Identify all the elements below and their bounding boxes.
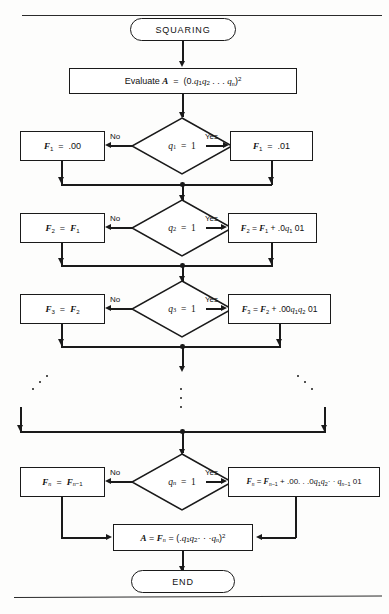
page-rule-top [22, 15, 382, 16]
no-box-row-2: F2 = F1 [20, 213, 105, 243]
arrowhead-merge-right-row-3 [276, 339, 282, 345]
branch-label-yes-row-n: Yes [205, 468, 218, 477]
arrowhead-left-to-final [106, 534, 112, 540]
evaluate-box-label: Evaluate A = (0.q1q2 . . . qn)2 [125, 75, 242, 86]
leg-left-to-final [61, 497, 63, 538]
branch-label-no-row-1: No [110, 132, 120, 141]
evaluate-box: Evaluate A = (0.q1q2 . . . qn)2 [69, 68, 297, 94]
yes-box-row-n: Fn = Fn−1 + .00. . .0q1q2· · qn−1 01 [228, 467, 380, 497]
yes-box-row-2: F2 = F1 + .0q1 01 [228, 213, 317, 243]
branch-label-no-row-n: No [110, 468, 120, 477]
yes-box-row-n-label: Fn = Fn−1 + .00. . .0q1q2· · qn−1 01 [246, 477, 361, 487]
connector-d3-yes [206, 308, 222, 310]
no-box-row-1-label: F1 = .00 [44, 141, 81, 152]
flowchart-page: SQUARING Evaluate A = (0.q1q2 . . . qn)2… [0, 0, 389, 614]
connector-d2-no [111, 227, 133, 229]
yes-box-row-2-label: F2 = F1 + .0q1 01 [241, 223, 305, 234]
arrowhead-row3-down [179, 366, 185, 372]
start-terminator-label: SQUARING [155, 25, 210, 35]
yes-box-row-1: F1 = .01 [230, 131, 313, 161]
arrowhead-merge-right-row-1 [268, 177, 274, 183]
yes-box-row-1-label: F1 = .01 [253, 141, 290, 152]
connector-row3-down [182, 346, 184, 368]
final-box-label: A = Fn = (.q1q2· · ·qn)2 [141, 532, 226, 543]
connector-dn-no [111, 481, 133, 483]
merge-bus-row-3 [61, 346, 280, 348]
branch-label-no-row-2: No [110, 214, 120, 223]
arrowhead-d1-no [105, 142, 111, 148]
final-box: A = Fn = (.q1q2· · ·qn)2 [113, 524, 253, 551]
no-box-row-3-label: F3 = F2 [45, 304, 79, 315]
no-box-row-2-label: F2 = F1 [45, 223, 79, 234]
merge-bus-row-1 [61, 184, 272, 186]
arrowhead-start-to-evaluate [179, 61, 185, 67]
branch-label-no-row-3: No [110, 295, 120, 304]
end-terminator: END [131, 570, 235, 593]
end-terminator-label: END [172, 577, 194, 587]
arrowhead-dn-yes [221, 478, 227, 484]
yes-box-row-3-label: F3 = F2 + .00q1q2 01 [242, 304, 318, 315]
no-box-row-3: F3 = F2 [20, 294, 105, 324]
branch-label-yes-row-1: Yes [205, 132, 218, 141]
branch-label-yes-row-3: Yes [205, 295, 218, 304]
arrowhead-merge-right-row-2 [268, 258, 274, 264]
connector-start-to-evaluate [182, 41, 184, 63]
leg-right-to-final [295, 497, 297, 538]
ellipsis-center [180, 388, 188, 414]
ellipsis-left [30, 375, 54, 399]
arrowhead-d3-yes [221, 305, 227, 311]
arrowhead-merge-left-row-3 [58, 339, 64, 345]
no-box-row-n: Fn = Fn−1 [20, 467, 105, 497]
arrowhead-dn-no [105, 478, 111, 484]
yes-box-row-3: F3 = F2 + .00q1q2 01 [228, 294, 331, 324]
connector-d2-yes [206, 227, 222, 229]
leg-left-to-final-h [61, 537, 108, 539]
arrowhead-right-to-final [256, 534, 262, 540]
connector-dn-yes [206, 481, 222, 483]
start-terminator: SQUARING [130, 18, 236, 41]
arrowhead-merge-left-row-1 [58, 177, 64, 183]
connector-d1-no [111, 145, 133, 147]
connector-d1-yes-seg [206, 145, 224, 147]
arrowhead-d3-no [105, 305, 111, 311]
connector-d3-no [111, 308, 133, 310]
arrowhead-d2-yes [221, 224, 227, 230]
no-box-row-1: F1 = .00 [20, 131, 105, 161]
rail-bus [20, 431, 326, 433]
arrowhead-d1-yes [223, 142, 229, 148]
merge-bus-row-2 [61, 265, 272, 267]
page-rule-bottom [14, 595, 382, 598]
no-box-row-n-label: Fn = Fn−1 [42, 477, 82, 488]
arrowhead-d2-no [105, 224, 111, 230]
branch-label-yes-row-2: Yes [205, 214, 218, 223]
leg-right-to-final-h [262, 537, 296, 539]
ellipsis-right [295, 375, 319, 399]
arrowhead-merge-left-row-2 [58, 258, 64, 264]
